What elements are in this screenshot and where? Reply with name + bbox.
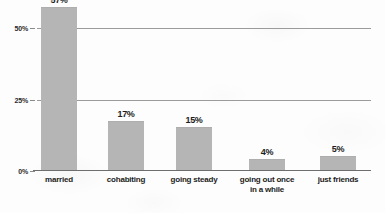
bar-value-label: 17%	[108, 109, 144, 119]
y-tick-mark	[30, 28, 35, 29]
x-axis-line	[33, 170, 371, 171]
x-label-going-out-once-in-a-while: going out once in a while	[227, 175, 307, 195]
x-label-line: in a while	[227, 185, 307, 195]
x-label-line: going steady	[160, 175, 228, 185]
y-tick-mark	[30, 171, 35, 172]
x-axis-labels: married cohabiting going steady going ou…	[37, 175, 371, 211]
y-tick-mark	[30, 100, 35, 101]
x-label-line: just friends	[304, 175, 372, 185]
bar-going-steady[interactable]	[176, 127, 212, 171]
y-tick-label-0: 0%	[18, 168, 28, 175]
x-label-line: going out once	[227, 175, 307, 185]
bar-cohabiting[interactable]	[108, 121, 144, 171]
bars-layer: 57% 17% 15% 4% 5%	[37, 8, 371, 171]
x-label-going-steady: going steady	[160, 175, 228, 185]
bar-value-label: 57%	[41, 0, 77, 5]
x-label-line: married	[25, 175, 93, 185]
bar-value-label: 5%	[320, 144, 356, 154]
bar-group-going-steady: 15%	[176, 8, 212, 171]
x-label-line: cohabiting	[92, 175, 160, 185]
bar-value-label: 15%	[176, 115, 212, 125]
bar-group-cohabiting: 17%	[108, 8, 144, 171]
bar-chart: 0% 25% 50% 57% 17% 15%	[0, 0, 385, 213]
bar-just-friends[interactable]	[320, 156, 356, 171]
y-tick-label-25: 25%	[15, 96, 28, 103]
x-label-just-friends: just friends	[304, 175, 372, 185]
x-label-cohabiting: cohabiting	[92, 175, 160, 185]
bar-group-married: 57%	[41, 8, 77, 171]
x-label-married: married	[25, 175, 93, 185]
plot-area: 0% 25% 50% 57% 17% 15%	[37, 8, 371, 171]
y-tick-label-50: 50%	[15, 25, 28, 32]
bar-group-going-out-once-in-a-while: 4%	[249, 8, 285, 171]
bar-married[interactable]	[41, 7, 77, 171]
bar-value-label: 4%	[249, 147, 285, 157]
bar-group-just-friends: 5%	[320, 8, 356, 171]
